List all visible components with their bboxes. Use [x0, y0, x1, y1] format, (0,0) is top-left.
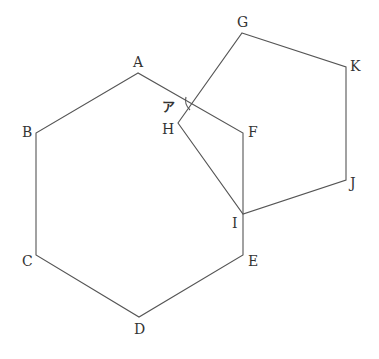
pentagon-gkjih — [178, 33, 346, 214]
geometry-diagram: ア ABCDEF GKJIH — [0, 0, 379, 359]
hexagon-abcdef — [36, 73, 243, 317]
vertex-label-a: A — [132, 54, 144, 70]
angle-label-a: ア — [162, 99, 175, 114]
hexagon-vertex-labels: ABCDEF — [22, 54, 258, 337]
vertex-label-h: H — [162, 121, 174, 137]
vertex-label-c: C — [22, 253, 33, 269]
vertex-label-i: I — [232, 215, 238, 231]
vertex-label-e: E — [248, 253, 258, 269]
vertex-label-g: G — [237, 14, 248, 30]
angle-arc-marker — [186, 97, 191, 110]
vertex-label-f: F — [248, 124, 258, 140]
vertex-label-j: J — [348, 175, 356, 191]
vertex-label-b: B — [22, 124, 32, 140]
vertex-label-d: D — [134, 321, 145, 337]
vertex-label-k: K — [350, 58, 361, 74]
pentagon-vertex-labels: GKJIH — [162, 14, 361, 231]
